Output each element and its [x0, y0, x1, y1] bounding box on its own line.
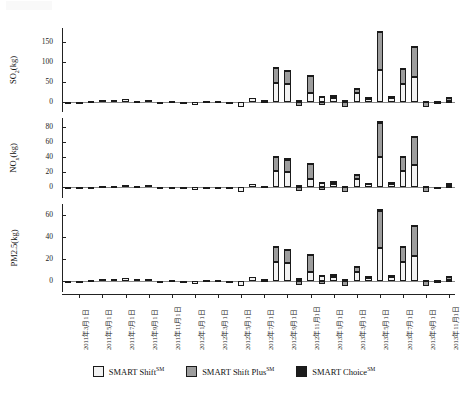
x-tick-label-6: 2012年3月1日 [221, 309, 228, 350]
bar-segment-smart-shift [145, 279, 151, 281]
x-tick-label-9: 2012年9月1日 [290, 309, 297, 350]
y-tick-label-pm25-1: 20 [46, 255, 54, 263]
x-tick-12 [357, 294, 358, 298]
x-tick-5 [195, 294, 196, 298]
y-axis-pm25 [62, 204, 63, 292]
y-axis-title-pm25: PM2.5(kg) [9, 229, 19, 266]
bar-segment-smart-choice [319, 275, 325, 277]
x-tick-8 [264, 294, 265, 298]
x-tick-label-2: 2011年7月1日 [128, 309, 135, 350]
bar-segment-smart-shift-plus [423, 281, 429, 286]
bar-pm25-2012-08 [273, 204, 279, 292]
bar-segment-smart-shift [65, 281, 71, 283]
bar-segment-smart-choice [284, 249, 290, 251]
x-tick-label-11: 2013年1月1日 [336, 309, 343, 350]
bar-pm25-2012-02 [203, 204, 209, 292]
bar-segment-smart-shift-plus [296, 281, 302, 285]
bar-segment-smart-choice [307, 254, 313, 256]
bar-pm25-2011-07 [122, 204, 128, 292]
bar-pm25-2011-04 [88, 204, 94, 292]
x-tick-9 [287, 294, 288, 298]
bar-pm25-2012-05 [238, 204, 244, 292]
x-tick-10 [311, 294, 312, 298]
legend-label-smart-shift-plus: SMART Shift PlusSM [202, 366, 274, 377]
bar-segment-smart-choice [377, 209, 383, 211]
bar-segment-smart-shift [99, 279, 105, 281]
bar-segment-smart-shift [203, 280, 209, 282]
bar-pm25-2013-08 [411, 204, 417, 292]
x-tick-label-5: 2012年1月1日 [198, 309, 205, 350]
x-tick-label-8: 2012年7月1日 [267, 309, 274, 350]
bar-pm25-2013-02 [342, 204, 348, 292]
bar-pm25-2011-12 [180, 204, 186, 292]
y-tick-label-pm25-0: 0 [49, 277, 53, 285]
bar-segment-smart-choice [342, 279, 348, 281]
x-tick-label-1: 2011年5月1日 [105, 309, 112, 350]
bar-segment-smart-shift [446, 280, 452, 282]
legend-swatch-smart-choice [296, 366, 307, 377]
x-tick-label-13: 2013年5月1日 [382, 309, 389, 350]
bar-segment-smart-shift-plus [342, 281, 348, 286]
legend-item-smart-shift: SMART ShiftSM [93, 366, 164, 377]
bar-pm25-2011-03 [76, 204, 82, 292]
bar-segment-smart-shift [76, 281, 82, 283]
bar-segment-smart-shift [169, 280, 175, 282]
x-tick-label-15: 2013年9月1日 [429, 309, 436, 350]
x-tick-11 [334, 294, 335, 298]
bar-segment-smart-choice [330, 274, 336, 276]
bar-pm25-2013-03 [354, 204, 360, 292]
bar-pm25-2013-04 [365, 204, 371, 292]
x-tick-1 [102, 294, 103, 298]
bar-segment-smart-shift [180, 281, 186, 283]
legend-label-smart-choice: SMART ChoiceSM [312, 366, 375, 377]
bar-pm25-2012-11 [307, 204, 313, 292]
bar-segment-smart-choice [400, 246, 406, 248]
bar-segment-smart-shift [122, 278, 128, 281]
bar-pm25-2012-07 [261, 204, 267, 292]
x-tick-7 [241, 294, 242, 298]
bar-segment-smart-choice [273, 246, 279, 248]
bar-pm25-2013-01 [330, 204, 336, 292]
x-tick-13 [380, 294, 381, 298]
bar-segment-smart-shift [249, 277, 255, 281]
x-tick-0 [79, 294, 80, 298]
zero-baseline-pm25 [62, 281, 455, 282]
bar-segment-smart-shift [88, 280, 94, 282]
legend-item-smart-shift-plus: SMART Shift PlusSM [186, 366, 274, 377]
bar-pm25-2012-01 [192, 204, 198, 292]
bar-segment-smart-choice [354, 266, 360, 268]
x-tick-16 [449, 294, 450, 298]
bar-pm25-2011-02 [65, 204, 71, 292]
bar-segment-smart-shift [377, 248, 383, 281]
bar-segment-smart-shift [284, 263, 290, 281]
bar-segment-smart-choice [446, 276, 452, 278]
x-tick-2 [126, 294, 127, 298]
bar-pm25-2011-08 [134, 204, 140, 292]
x-tick-label-0: 2011年3月1日 [82, 309, 89, 350]
bar-segment-smart-shift [330, 277, 336, 281]
bar-segment-smart-choice [365, 276, 371, 278]
x-tick-label-10: 2012年11月1日 [313, 306, 320, 350]
bar-pm25-2012-06 [249, 204, 255, 292]
legend-swatch-smart-shift [93, 366, 104, 377]
bar-pm25-2012-10 [296, 204, 302, 292]
bar-segment-smart-shift [411, 256, 417, 281]
bar-segment-smart-shift-plus [377, 211, 383, 248]
bar-segment-smart-shift-plus [284, 250, 290, 263]
bar-pm25-2011-06 [111, 204, 117, 292]
x-tick-14 [403, 294, 404, 298]
x-tick-15 [426, 294, 427, 298]
bar-segment-smart-shift [157, 281, 163, 283]
panel-pm25: 0204060PM2.5(kg) [0, 0, 468, 399]
bar-pm25-2011-05 [99, 204, 105, 292]
legend-label-smart-shift: SMART ShiftSM [109, 366, 164, 377]
chart-legend: SMART ShiftSMSMART Shift PlusSMSMART Cho… [0, 366, 468, 377]
bar-segment-smart-choice [411, 225, 417, 227]
bar-pm25-2011-09 [145, 204, 151, 292]
bar-pm25-2012-04 [226, 204, 232, 292]
bar-pm25-2013-09 [423, 204, 429, 292]
bar-segment-smart-shift [273, 262, 279, 281]
legend-item-smart-choice: SMART ChoiceSM [296, 366, 375, 377]
bar-segment-smart-shift [134, 279, 140, 281]
bar-pm25-2013-06 [388, 204, 394, 292]
